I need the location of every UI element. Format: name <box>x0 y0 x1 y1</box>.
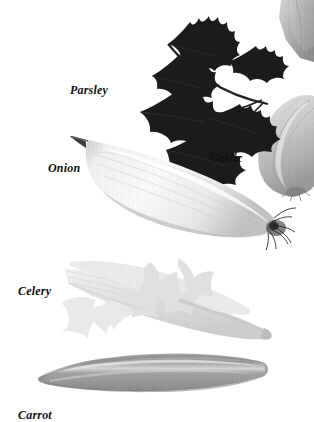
garlic-specimen <box>258 95 314 201</box>
carrot-specimen <box>38 353 268 392</box>
label-carrot: Carrot <box>18 409 52 421</box>
leek-specimen <box>279 0 314 62</box>
onion-specimen <box>70 136 296 250</box>
label-parsley: Parsley <box>70 84 108 96</box>
label-celery: Celery <box>18 285 51 297</box>
label-onion: Onion <box>48 162 80 174</box>
celery-specimen <box>62 258 272 340</box>
label-garlic: Garlic <box>210 152 243 164</box>
